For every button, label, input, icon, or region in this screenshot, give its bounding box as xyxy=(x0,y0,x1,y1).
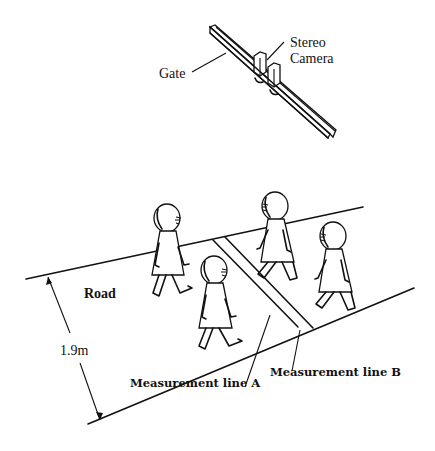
stereo-camera-label-line1: Stereo xyxy=(290,35,326,50)
diagram-svg: Gate Stereo Camera 1.9m Road Measurement… xyxy=(0,0,435,451)
measurement-line-a-label: Measurement line A xyxy=(130,376,261,390)
width-label: 1.9m xyxy=(60,343,89,358)
measurement-line-b-label: Measurement line B xyxy=(270,365,401,379)
gate-leader-line xyxy=(192,53,226,72)
pedestrian-3 xyxy=(257,192,297,280)
stereo-camera-label-line2: Camera xyxy=(290,51,334,66)
road-bottom-edge xyxy=(88,288,414,424)
pedestrian-1 xyxy=(152,204,192,296)
road-label: Road xyxy=(84,286,116,301)
diagram-canvas: Gate Stereo Camera 1.9m Road Measurement… xyxy=(0,0,435,451)
pedestrian-2 xyxy=(199,256,242,349)
pedestrian-4 xyxy=(315,222,355,310)
road-top-edge xyxy=(26,207,363,279)
gate-label: Gate xyxy=(159,66,185,81)
camera-leader-line xyxy=(267,42,284,60)
